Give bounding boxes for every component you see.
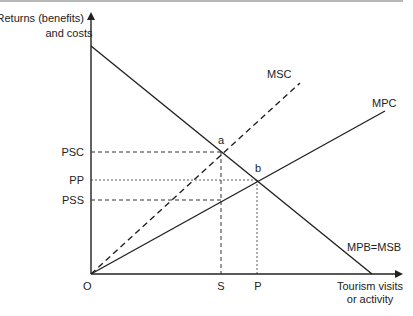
msc-label: MSC — [267, 68, 292, 80]
pss-label: PSS — [62, 194, 84, 206]
mpb-msb-curve — [91, 46, 372, 274]
p-label: P — [254, 280, 261, 292]
msc-curve — [91, 83, 300, 274]
psc-label: PSC — [61, 146, 84, 158]
mpc-label: MPC — [372, 97, 397, 109]
mpb-msb-label: MPB=MSB — [347, 241, 401, 253]
origin-label: O — [83, 280, 92, 292]
y-axis-label-line1: Returns (benefits) — [0, 12, 84, 24]
y-axis-label-line2: and costs — [45, 27, 93, 39]
externality-diagram: Returns (benefits) and costs MSC MPC MPB… — [0, 0, 413, 316]
x-axis-label-line2: or activity — [347, 293, 394, 305]
point-b-label: b — [255, 162, 261, 174]
point-a-label: a — [218, 134, 225, 146]
x-axis-label-line1: Tourism visits — [337, 280, 404, 292]
s-label: S — [217, 280, 224, 292]
pp-label: PP — [69, 174, 84, 186]
